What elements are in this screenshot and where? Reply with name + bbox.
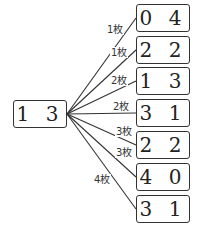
connector-line <box>67 18 136 114</box>
edge-label: 2枚 <box>110 75 128 86</box>
branch-node: 4 0 <box>136 163 190 191</box>
branch-node: 1 3 <box>136 67 190 95</box>
edge-label: 3枚 <box>115 126 133 137</box>
branch-node: 0 4 <box>136 4 190 32</box>
connector-line <box>67 113 136 114</box>
branch-node: 2 2 <box>136 36 190 64</box>
edge-label: 2枚 <box>112 101 130 112</box>
branch-node: 2 2 <box>136 131 190 159</box>
branch-node: 3 1 <box>136 99 190 127</box>
edge-label: 4枚 <box>93 174 111 185</box>
branch-node: 3 1 <box>136 195 190 223</box>
edge-label: 1枚 <box>106 24 124 35</box>
edge-label: 3枚 <box>115 147 133 158</box>
connector-line <box>67 114 136 177</box>
root-node: 1 3 <box>13 100 67 128</box>
edge-label: 1枚 <box>110 47 128 58</box>
